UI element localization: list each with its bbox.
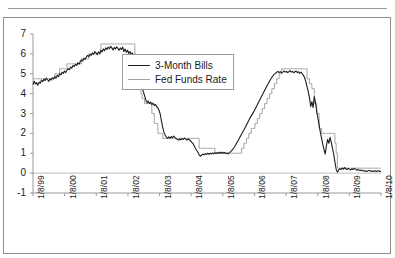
figure-frame: -101234567 1/8/991/8/001/8/011/8/021/8/0…: [3, 17, 391, 254]
plot-area: -101234567 1/8/991/8/001/8/011/8/021/8/0…: [4, 18, 392, 255]
y-axis-tick-label: 2: [8, 128, 26, 138]
chart-legend: 3-Month BillsFed Funds Rate: [122, 54, 234, 90]
legend-label: Fed Funds Rate: [155, 74, 227, 85]
y-axis-tick-label: 0: [8, 168, 26, 178]
cropped-header-text: [0, 0, 395, 7]
y-axis-tick-label: 5: [8, 69, 26, 79]
y-axis-tick-label: -1: [8, 188, 26, 198]
legend-item: Fed Funds Rate: [128, 72, 227, 86]
y-axis-tick-label: 1: [8, 148, 26, 158]
y-axis-tick-label: 7: [8, 29, 26, 39]
x-axis-tick-label: 1/8/00: [69, 175, 78, 199]
x-axis-tick-label: 1/8/08: [322, 175, 331, 199]
y-axis-tick-label: 4: [8, 89, 26, 99]
x-axis-tick-label: 1/8/03: [164, 175, 173, 199]
y-axis-tick-label: 6: [8, 49, 26, 59]
x-axis-tick-label: 1/8/04: [195, 175, 204, 199]
x-axis-tick-label: 1/8/99: [37, 175, 46, 199]
legend-item: 3-Month Bills: [128, 58, 227, 72]
header-divider-rule: [8, 8, 387, 9]
y-axis-tick-label: 3: [8, 109, 26, 119]
legend-line-swatch-icon: [128, 65, 150, 66]
x-axis-tick-label: 1/8/07: [290, 175, 299, 199]
legend-label: 3-Month Bills: [155, 60, 213, 71]
x-axis-tick-label: 1/8/02: [132, 175, 141, 199]
legend-line-swatch-icon: [128, 79, 150, 80]
x-axis-tick-label: 1/8/05: [227, 175, 236, 199]
x-axis-tick-label: 1/8/09: [353, 175, 362, 199]
x-axis-tick-label: 1/8/01: [100, 175, 109, 199]
chart-page: -101234567 1/8/991/8/001/8/011/8/021/8/0…: [0, 0, 395, 258]
x-axis-tick-label: 1/8/06: [258, 175, 267, 199]
x-axis-tick-label: 1/8/10: [385, 175, 394, 199]
